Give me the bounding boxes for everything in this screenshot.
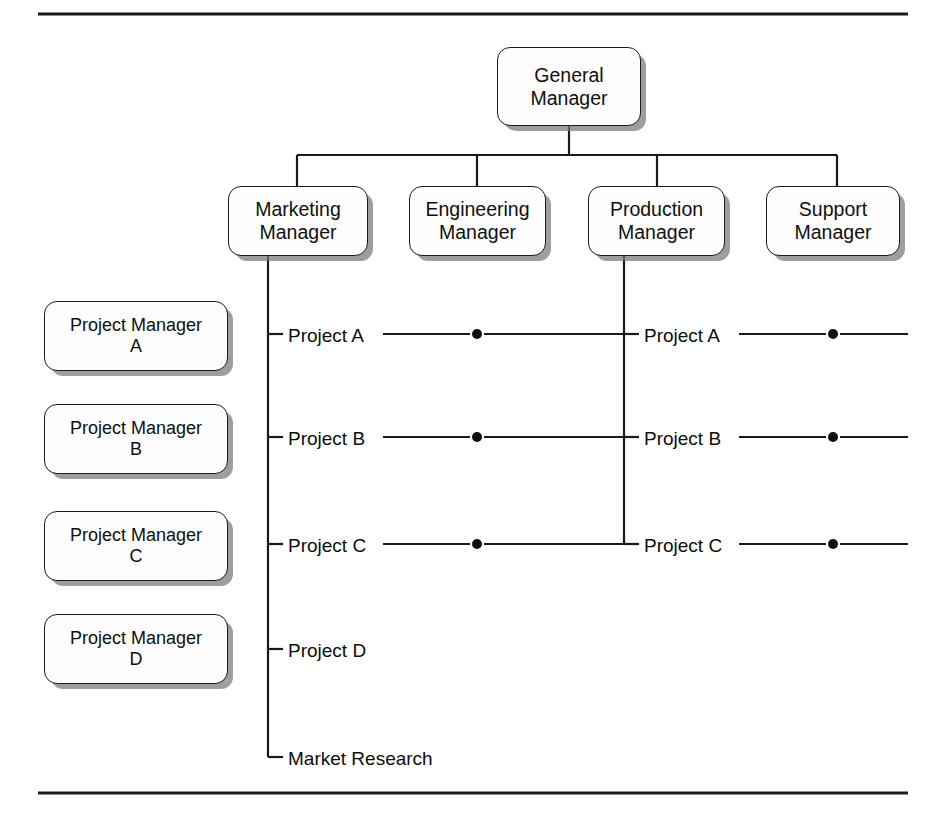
node-label-line2: C	[130, 546, 143, 567]
junction-dot-a-right	[828, 329, 838, 339]
node-label-line2: Manager	[795, 221, 872, 244]
junction-dot-a-left	[472, 329, 482, 339]
node-general-manager[interactable]: General Manager	[497, 47, 641, 126]
branch-label-marketing-market-research[interactable]: Market Research	[288, 749, 433, 768]
branch-label-production-project-b[interactable]: Project B	[644, 429, 721, 448]
node-support-manager[interactable]: Support Manager	[766, 186, 900, 256]
node-engineering-manager[interactable]: Engineering Manager	[409, 186, 546, 256]
node-label-line1: Support	[799, 198, 867, 221]
node-label-line2: Manager	[618, 221, 695, 244]
branch-label-marketing-project-c[interactable]: Project C	[288, 536, 366, 555]
node-label-line1: Project Manager	[70, 418, 202, 439]
node-label-line1: General	[534, 64, 603, 87]
branch-label-marketing-project-a[interactable]: Project A	[288, 326, 364, 345]
node-label-line1: Production	[610, 198, 703, 221]
branch-label-marketing-project-d[interactable]: Project D	[288, 641, 366, 660]
node-label-line2: D	[130, 649, 143, 670]
junction-dot-b-left	[472, 432, 482, 442]
branch-label-production-project-a[interactable]: Project A	[644, 326, 720, 345]
node-label-line1: Marketing	[255, 198, 341, 221]
junction-dot-c-right	[828, 539, 838, 549]
node-label-line2: Manager	[260, 221, 337, 244]
node-label-line2: B	[130, 439, 142, 460]
junction-dot-c-left	[472, 539, 482, 549]
node-project-manager-c[interactable]: Project Manager C	[44, 511, 228, 581]
branch-label-production-project-c[interactable]: Project C	[644, 536, 722, 555]
org-chart-canvas: General Manager Marketing Manager Engine…	[0, 0, 936, 813]
node-label-line1: Project Manager	[70, 628, 202, 649]
node-label-line2: Manager	[439, 221, 516, 244]
node-label-line1: Engineering	[425, 198, 529, 221]
junction-dot-b-right	[828, 432, 838, 442]
node-project-manager-d[interactable]: Project Manager D	[44, 614, 228, 684]
node-marketing-manager[interactable]: Marketing Manager	[228, 186, 368, 256]
node-project-manager-a[interactable]: Project Manager A	[44, 301, 228, 371]
node-label-line1: Project Manager	[70, 525, 202, 546]
branch-label-marketing-project-b[interactable]: Project B	[288, 429, 365, 448]
node-label-line1: Project Manager	[70, 315, 202, 336]
node-label-line2: Manager	[531, 87, 608, 110]
node-production-manager[interactable]: Production Manager	[588, 186, 725, 256]
node-project-manager-b[interactable]: Project Manager B	[44, 404, 228, 474]
node-label-line2: A	[130, 336, 142, 357]
